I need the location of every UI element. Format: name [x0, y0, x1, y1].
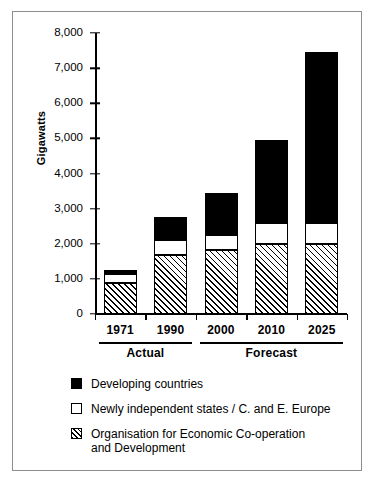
- y-axis-tick-label: 4,000: [39, 168, 83, 180]
- bar-2025: [305, 33, 338, 314]
- bar-segment-developing: [104, 270, 137, 274]
- bar-segment-nis: [305, 223, 338, 244]
- bar-segment-oecd: [255, 244, 288, 314]
- x-axis-tick-mark: [95, 314, 96, 320]
- bar-segment-developing: [154, 217, 187, 239]
- chart-figure: Gigawatts 8,0007,0006,0005,0004,0003,000…: [12, 11, 362, 471]
- legend-item[interactable]: Newly independent states / C. and E. Eur…: [71, 402, 351, 416]
- legend-swatch-black-icon: [71, 378, 82, 389]
- y-axis-tick-label: 0: [39, 308, 83, 320]
- bar-1990: [154, 33, 187, 314]
- y-axis-tick-label: 8,000: [39, 27, 83, 39]
- bar-segment-oecd: [104, 283, 137, 314]
- x-axis-tick-mark: [347, 314, 348, 320]
- legend-item[interactable]: Developing countries: [71, 377, 351, 391]
- bar-segment-oecd: [205, 250, 238, 314]
- bar-segment-developing: [205, 193, 238, 235]
- y-axis-tick-label: 2,000: [39, 238, 83, 250]
- legend-item[interactable]: Organisation for Economic Co-operation a…: [71, 427, 351, 455]
- x-axis-tick-mark: [196, 314, 197, 320]
- y-axis-tick-label: 5,000: [39, 133, 83, 145]
- group-label-actual: Actual: [99, 346, 192, 360]
- bar-segment-nis: [154, 240, 187, 255]
- bar-1971: [104, 33, 137, 314]
- y-axis-tick-label: 3,000: [39, 203, 83, 215]
- bar-segment-nis: [104, 274, 137, 283]
- group-rule-forecast: [200, 342, 343, 344]
- bar-series-group: [95, 33, 347, 314]
- bar-segment-developing: [255, 140, 288, 223]
- bar-2010: [255, 33, 288, 314]
- x-axis-tick-mark: [297, 314, 298, 320]
- bar-segment-nis: [255, 223, 288, 244]
- bar-segment-oecd: [154, 255, 187, 314]
- group-label-forecast: Forecast: [200, 346, 343, 360]
- x-axis-label-2025: 2025: [292, 323, 352, 337]
- chart-legend: Developing countriesNewly independent st…: [71, 377, 351, 467]
- group-rule-actual: [99, 342, 192, 344]
- legend-swatch-hatch-icon: [71, 428, 82, 439]
- legend-swatch-white-icon: [71, 403, 82, 414]
- x-axis-tick-mark: [246, 314, 247, 320]
- bar-segment-nis: [205, 235, 238, 250]
- bar-segment-oecd: [305, 244, 338, 314]
- x-axis-tick-mark: [145, 314, 146, 320]
- legend-label: Developing countries: [91, 377, 203, 391]
- y-axis-tick-label: 1,000: [39, 273, 83, 285]
- y-axis-tick-label: 6,000: [39, 98, 83, 110]
- legend-label: Organisation for Economic Co-operation a…: [91, 427, 305, 455]
- legend-label: Newly independent states / C. and E. Eur…: [91, 402, 330, 416]
- bar-2000: [205, 33, 238, 314]
- y-axis-tick-label: 7,000: [39, 62, 83, 74]
- bar-segment-developing: [305, 52, 338, 222]
